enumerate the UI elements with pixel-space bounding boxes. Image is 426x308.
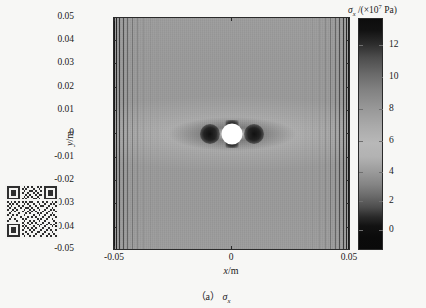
x-tickmark-top: [114, 17, 115, 21]
y-tickmark-right: [346, 157, 350, 158]
colorbar-title-tail: Pa): [382, 5, 397, 15]
colorbar-tickmark: [379, 77, 383, 78]
colorbar-tickmark: [379, 141, 383, 142]
y-tickmark-right: [346, 110, 350, 111]
colorbar-tick-label: 12: [389, 40, 399, 50]
colorbar-title: σx /(×107 Pa): [348, 3, 397, 17]
y-tickmark: [113, 40, 117, 41]
colorbar-tick-label: 2: [389, 196, 394, 206]
x-axis-label-unit: /m: [228, 265, 239, 276]
x-tickmark: [231, 246, 232, 250]
y-tick-label: 0.05: [34, 12, 74, 22]
y-tickmark-right: [346, 40, 350, 41]
colorbar-tickmark-left: [359, 172, 363, 173]
y-tickmark: [113, 157, 117, 158]
colorbar-tickmark-left: [359, 141, 363, 142]
colorbar-tick-label: 10: [389, 72, 399, 82]
qr-code-watermark: [5, 183, 59, 240]
colorbar-tickmark-left: [359, 77, 363, 78]
colorbar-title-rest: /(×10: [356, 5, 379, 15]
colorbar-tickmark: [379, 201, 383, 202]
circular-hole: [221, 123, 242, 144]
y-tickmark-right: [346, 227, 350, 228]
x-tickmark: [114, 246, 115, 250]
colorbar-tickmark-left: [359, 201, 363, 202]
stress-lobe-left: [200, 124, 220, 144]
colorbar-tick-label: 0: [389, 225, 394, 235]
x-tickmark-top: [231, 17, 232, 21]
y-tick-label: -0.01: [34, 152, 74, 162]
colorbar-tickmark: [379, 45, 383, 46]
colorbar-tick-label: 8: [389, 104, 394, 114]
stress-lobe-right: [244, 124, 264, 144]
y-axis-label-unit: /m: [64, 131, 75, 142]
figure-caption-subscript: x: [227, 297, 230, 304]
y-tickmark: [113, 227, 117, 228]
colorbar-tickmark: [379, 230, 383, 231]
y-tick-label: 0.03: [34, 58, 74, 68]
x-tick-label: -0.05: [104, 253, 124, 263]
colorbar-gradient: [358, 18, 383, 250]
y-tickmark: [113, 110, 117, 111]
colorbar-tickmark: [379, 172, 383, 173]
x-tickmark: [349, 246, 350, 250]
y-tick-label: 0.01: [34, 105, 74, 115]
y-axis-label-var: y: [64, 142, 75, 146]
y-tickmark: [113, 133, 117, 134]
right-edge-band-stripes: [303, 18, 349, 249]
figure-caption: （a） σx: [196, 288, 231, 304]
x-tick-label: 0: [229, 253, 234, 263]
y-tick-label: -0.05: [34, 244, 74, 254]
colorbar-tickmark-left: [359, 45, 363, 46]
y-tickmark-right: [346, 133, 350, 134]
y-tickmark-right: [346, 63, 350, 64]
colorbar-tick-label: 4: [389, 167, 394, 177]
y-axis-label: y/m: [64, 131, 75, 146]
y-tickmark-right: [346, 180, 350, 181]
colorbar-tickmark: [379, 109, 383, 110]
x-axis-label: x/m: [223, 265, 238, 276]
y-tickmark-right: [346, 87, 350, 88]
x-tick-label: 0.05: [341, 253, 358, 263]
colorbar-tickmark-left: [359, 109, 363, 110]
heatmap-plot-area: [113, 17, 350, 250]
left-edge-band-stripes: [114, 18, 160, 249]
y-tick-label: 0.04: [34, 35, 74, 45]
y-tickmark-right: [346, 203, 350, 204]
y-tickmark: [113, 180, 117, 181]
colorbar-tick-label: 6: [389, 136, 394, 146]
x-tickmark-top: [349, 17, 350, 21]
y-tick-label: 0.02: [34, 82, 74, 92]
y-tickmark: [113, 203, 117, 204]
y-tickmark: [113, 63, 117, 64]
figure-caption-prefix: （a）: [196, 291, 220, 302]
figure-panel: 0.05 0.04 0.03 0.02 0.01 0 -0.01 -0.02 -…: [0, 0, 426, 308]
colorbar-tickmark-left: [359, 230, 363, 231]
y-tickmark: [113, 87, 117, 88]
